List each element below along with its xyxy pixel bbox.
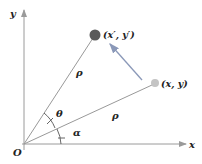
- rho-label-upper: ρ: [75, 67, 83, 78]
- alpha-label: α: [73, 127, 81, 138]
- rotated-point-label: (x′, y′): [103, 29, 135, 41]
- original-point: [151, 79, 159, 87]
- rotation-diagram: y x O (x′, y′) (x, y) ρ ρ θ α: [0, 0, 202, 164]
- x-axis-label: x: [188, 139, 196, 150]
- y-axis-label: y: [9, 8, 17, 19]
- rho-label-lower: ρ: [111, 110, 119, 121]
- original-point-label: (x, y): [161, 78, 188, 90]
- origin-label: O: [13, 147, 22, 158]
- rotation-arrow: [110, 44, 142, 80]
- theta-label: θ: [56, 108, 63, 119]
- theta-arc: [44, 113, 55, 128]
- diagram-svg: y x O (x′, y′) (x, y) ρ ρ θ α: [0, 0, 202, 164]
- alpha-arc: [57, 129, 61, 144]
- rotated-point: [90, 30, 101, 41]
